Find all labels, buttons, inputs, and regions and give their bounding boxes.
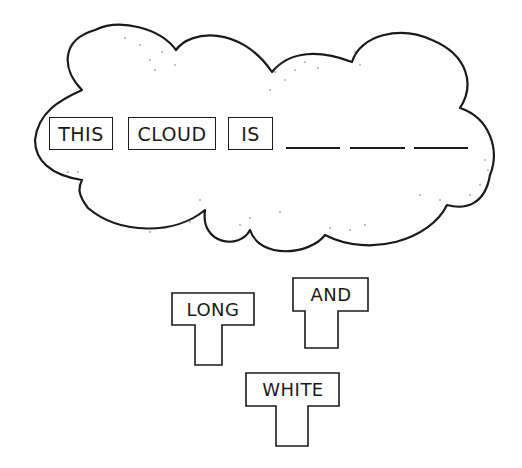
word-tile-white[interactable]: WHITE: [245, 372, 341, 448]
answer-blank-3[interactable]: [414, 147, 468, 149]
word-tile-and[interactable]: AND: [292, 277, 370, 350]
word-tile-long[interactable]: LONG: [171, 292, 255, 367]
word-box-this: THIS: [49, 117, 113, 150]
answer-blank-2[interactable]: [350, 147, 405, 149]
word-box-is: IS: [228, 117, 273, 150]
answer-blank-1[interactable]: [286, 147, 340, 149]
word-box-cloud: CLOUD: [128, 117, 216, 150]
tile-label: LONG: [171, 292, 255, 326]
tile-label: AND: [292, 277, 370, 311]
tile-label: WHITE: [245, 372, 341, 406]
